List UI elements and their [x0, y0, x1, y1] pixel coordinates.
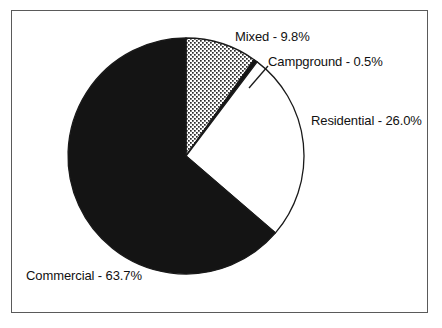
slice-label-campground: Campground - 0.5% — [268, 54, 383, 69]
slice-label-commercial: Commercial - 63.7% — [26, 268, 142, 283]
slice-label-mixed: Mixed - 9.8% — [235, 29, 310, 44]
slice-label-residential: Residential - 26.0% — [311, 113, 422, 128]
pie-chart-figure: Mixed - 9.8% Campground - 0.5% Residenti… — [0, 0, 442, 328]
